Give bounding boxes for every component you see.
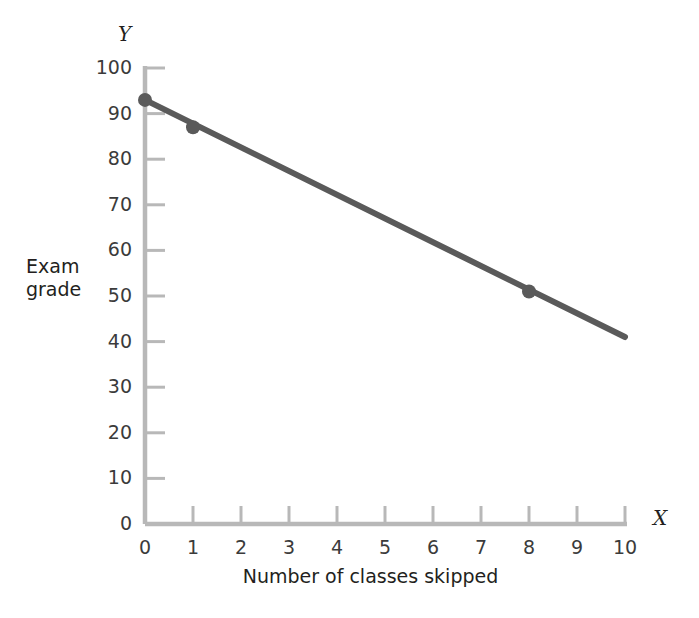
data-point-2 bbox=[522, 284, 536, 298]
data-line-0 bbox=[145, 100, 625, 337]
y-tick-label-70: 70 bbox=[76, 195, 132, 214]
x-tick-label-1: 1 bbox=[173, 538, 213, 557]
data-point-1 bbox=[186, 120, 200, 134]
chart-figure: Y X Exam grade Number of classes skipped… bbox=[0, 0, 699, 618]
y-tick-label-90: 90 bbox=[76, 104, 132, 123]
x-tick-label-6: 6 bbox=[413, 538, 453, 557]
data-line-group bbox=[145, 100, 625, 337]
x-tick-label-7: 7 bbox=[461, 538, 501, 557]
x-tick-label-10: 10 bbox=[605, 538, 645, 557]
data-point-0 bbox=[138, 93, 152, 107]
x-axis-title-text: Number of classes skipped bbox=[201, 565, 499, 587]
y-tick-label-40: 40 bbox=[76, 332, 132, 351]
x-tick-label-0: 0 bbox=[125, 538, 165, 557]
x-tick-label-8: 8 bbox=[509, 538, 549, 557]
x-tick-label-3: 3 bbox=[269, 538, 309, 557]
y-tick-label-50: 50 bbox=[76, 286, 132, 305]
y-tick-label-80: 80 bbox=[76, 149, 132, 168]
x-tick-label-4: 4 bbox=[317, 538, 357, 557]
y-axis-title-text: Exam grade bbox=[26, 255, 81, 300]
x-axis-title: Number of classes skipped bbox=[0, 565, 699, 587]
y-tick-label-0: 0 bbox=[76, 514, 132, 533]
y-axis-letter: Y bbox=[118, 24, 131, 44]
y-tick-label-100: 100 bbox=[76, 58, 132, 77]
y-tick-label-60: 60 bbox=[76, 240, 132, 259]
y-tick-label-10: 10 bbox=[76, 468, 132, 487]
y-tick-label-30: 30 bbox=[76, 377, 132, 396]
x-tick-label-5: 5 bbox=[365, 538, 405, 557]
x-axis-letter: X bbox=[653, 508, 667, 528]
x-tick-label-2: 2 bbox=[221, 538, 261, 557]
x-tick-label-9: 9 bbox=[557, 538, 597, 557]
y-tick-label-20: 20 bbox=[76, 423, 132, 442]
